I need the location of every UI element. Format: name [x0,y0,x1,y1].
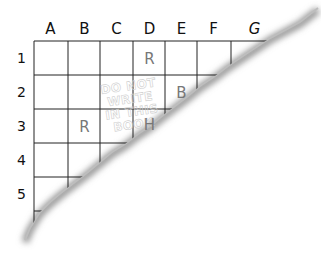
torn-grid-worksheet: A B C D E F G 1 2 3 4 5 DO NOT WRITE IN … [0,0,321,254]
cell-d1: R [133,50,166,68]
cell-d3: H [133,116,166,134]
column-label-d: D [133,20,166,38]
column-label-a: A [34,20,67,38]
row-label-4: 4 [17,152,26,168]
cell-b3: R [68,118,101,136]
row-label-1: 1 [17,50,26,66]
row-label-2: 2 [17,84,26,100]
cell-e2: B [165,84,198,102]
column-label-g: G [238,20,271,38]
column-label-c: C [100,20,133,38]
row-label-3: 3 [17,118,26,134]
column-label-f: F [197,20,230,38]
column-label-e: E [165,20,198,38]
column-label-b: B [68,20,101,38]
row-label-5: 5 [17,186,26,202]
